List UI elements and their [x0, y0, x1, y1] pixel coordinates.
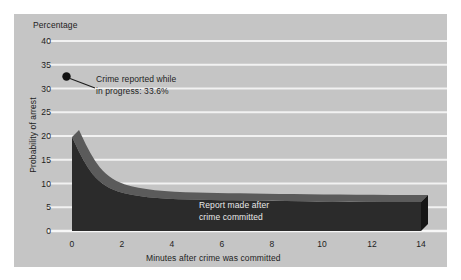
x-tick-label: 12: [362, 239, 382, 249]
y-tick-label: 25: [31, 107, 51, 117]
y-tick-label: 15: [31, 155, 51, 165]
callout-line-1: Crime reported while: [96, 74, 176, 86]
x-tick-label: 2: [112, 239, 132, 249]
series-label-line-1: Report made after: [199, 200, 269, 212]
x-axis-title: Minutes after crime was committed: [146, 253, 281, 263]
x-tick-label: 14: [411, 239, 431, 249]
x-tick-label: 8: [262, 239, 282, 249]
callout-line-2: in progress: 33.6%: [96, 86, 176, 98]
y-tick-label: 30: [31, 84, 51, 94]
y-tick-label: 10: [31, 179, 51, 189]
y-tick-label: 0: [31, 226, 51, 236]
y-tick-label: 35: [31, 60, 51, 70]
y-tick-label: 40: [31, 36, 51, 46]
series-label-line-2: crime committed: [199, 212, 269, 224]
area-top-surface: [72, 130, 428, 202]
y-tick-label: 5: [31, 202, 51, 212]
x-tick-label: 10: [312, 239, 332, 249]
series-inline-label: Report made after crime committed: [199, 200, 269, 223]
x-tick-label: 4: [162, 239, 182, 249]
chart-figure: Percentage Probability of arrest 40 35: [0, 0, 461, 280]
callout-leader-line: [70, 79, 95, 89]
plot-area: [0, 0, 461, 280]
x-tick-label: 6: [212, 239, 232, 249]
y-tick-label: 20: [31, 131, 51, 141]
x-tick-label: 0: [62, 239, 82, 249]
callout-annotation: Crime reported while in progress: 33.6%: [96, 74, 176, 97]
data-point-marker: [62, 72, 70, 80]
